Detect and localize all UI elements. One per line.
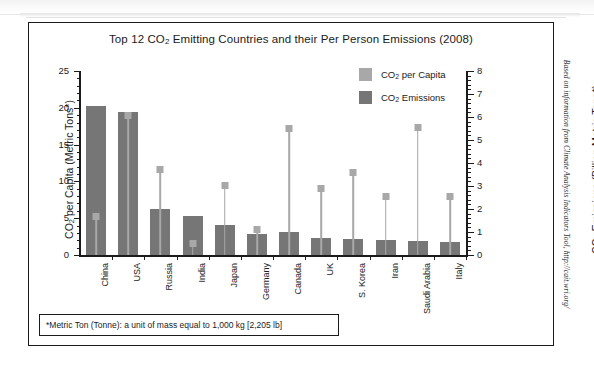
category-tick	[112, 256, 113, 260]
right-axis-tick-label: 3	[477, 181, 499, 191]
category-label-saudi-arabia: Saudi Arabia	[422, 263, 432, 314]
per-capita-stem	[417, 128, 419, 255]
category-tick	[273, 256, 274, 260]
chart-legend: CO2 per CapitaCO2 Emissions	[359, 67, 509, 113]
right-axis-tick-label: 0	[477, 250, 499, 260]
chart-bar-group	[241, 71, 273, 255]
right-axis-minor-tick	[468, 154, 472, 155]
right-axis-minor-tick	[468, 246, 472, 247]
per-capita-marker	[382, 193, 389, 200]
per-capita-marker	[93, 213, 100, 220]
right-axis-major-tick	[468, 255, 474, 256]
source-credit: Based on information from Climate Analys…	[556, 22, 576, 346]
chart-bar-group	[273, 71, 305, 255]
category-tick	[305, 256, 306, 260]
right-axis-minor-tick	[468, 172, 472, 173]
per-capita-marker	[318, 185, 325, 192]
right-axis-major-tick	[468, 209, 474, 210]
category-label-uk: UK	[325, 263, 335, 276]
right-axis-minor-tick	[468, 135, 472, 136]
category-tick	[241, 256, 242, 260]
per-capita-stem	[449, 197, 451, 255]
chart-title: Top 12 CO2 Emitting Countries and their …	[29, 33, 553, 46]
per-capita-marker	[253, 226, 260, 233]
per-capita-stem	[320, 189, 322, 255]
per-capita-marker	[189, 240, 196, 247]
right-axis-minor-tick	[468, 181, 472, 182]
chart-bar-group	[305, 71, 337, 255]
left-axis-title-post: per Capita (Metric Tons*)	[63, 100, 75, 219]
right-axis-minor-tick	[468, 122, 472, 123]
per-capita-stem	[256, 229, 258, 255]
right-axis-major-tick	[468, 117, 474, 118]
right-axis-minor-tick	[468, 241, 472, 242]
category-label-japan: Japan	[229, 263, 239, 288]
category-label-russia: Russia	[164, 263, 174, 291]
right-axis-minor-tick	[468, 227, 472, 228]
right-axis-minor-tick	[468, 131, 472, 132]
right-axis-minor-tick	[468, 149, 472, 150]
category-label-usa: USA	[132, 263, 142, 282]
per-capita-marker	[350, 169, 357, 176]
chart-bar-group	[80, 71, 112, 255]
legend-swatch	[359, 68, 372, 81]
chart-title-post: Emitting Countries and their Per Person …	[169, 33, 473, 45]
right-axis-title-pre: CO	[590, 238, 594, 254]
category-tick	[177, 256, 178, 260]
scan-horizontal-rule	[26, 17, 566, 18]
per-capita-stem	[288, 128, 290, 255]
category-tick	[466, 256, 467, 260]
left-axis-title-subscript: 2	[67, 219, 76, 223]
category-label-china: China	[100, 263, 110, 287]
right-axis-minor-tick	[468, 223, 472, 224]
right-axis-minor-tick	[468, 126, 472, 127]
right-axis-title: CO2 Emissions (Billion Metric Tons*)	[590, 55, 594, 285]
category-tick	[209, 256, 210, 260]
right-axis-minor-tick	[468, 250, 472, 251]
category-label-canada: Canada	[293, 263, 303, 295]
right-axis-major-tick	[468, 186, 474, 187]
right-axis-minor-tick	[468, 177, 472, 178]
right-axis-title-post: Emissions (Billion Metric Tons*)	[590, 85, 594, 234]
right-axis-minor-tick	[468, 145, 472, 146]
footnote-box: *Metric Ton (Tonne): a unit of mass equa…	[39, 314, 339, 336]
category-tick	[337, 256, 338, 260]
right-axis-minor-tick	[468, 218, 472, 219]
left-axis-title-pre: CO	[63, 223, 75, 239]
chart-bar-group	[112, 71, 144, 255]
category-tick	[402, 256, 403, 260]
per-capita-marker	[221, 182, 228, 189]
category-label-italy: Italy	[454, 263, 464, 280]
per-capita-stem	[353, 173, 355, 255]
chart-bar-group	[144, 71, 176, 255]
per-capita-marker	[446, 193, 453, 200]
category-label-s-korea: S. Korea	[357, 263, 367, 298]
per-capita-marker	[414, 124, 421, 131]
chart-figure-box: Top 12 CO2 Emitting Countries and their …	[28, 22, 554, 346]
right-axis-minor-tick	[468, 214, 472, 215]
legend-item: CO2 Emissions	[359, 90, 509, 104]
category-tick	[434, 256, 435, 260]
right-axis-tick-label: 2	[477, 204, 499, 214]
chart-title-pre: Top 12 CO	[109, 33, 165, 45]
right-axis-minor-tick	[468, 200, 472, 201]
right-axis-minor-tick	[468, 195, 472, 196]
category-label-germany: Germany	[261, 263, 271, 300]
per-capita-marker	[125, 112, 132, 119]
legend-swatch	[359, 91, 372, 104]
category-tick	[144, 256, 145, 260]
per-capita-marker	[157, 166, 164, 173]
category-tick	[370, 256, 371, 260]
right-axis-tick-label: 1	[477, 227, 499, 237]
right-axis-major-tick	[468, 140, 474, 141]
per-capita-stem	[127, 115, 129, 255]
right-axis-minor-tick	[468, 158, 472, 159]
category-label-iran: Iran	[390, 263, 400, 279]
left-axis-title: CO2 per Capita (Metric Tons*)	[63, 70, 76, 270]
per-capita-stem	[224, 185, 226, 255]
chart-bar-group	[177, 71, 209, 255]
per-capita-marker	[286, 125, 293, 132]
right-axis-minor-tick	[468, 237, 472, 238]
right-axis-minor-tick	[468, 168, 472, 169]
legend-item: CO2 per Capita	[359, 67, 509, 81]
